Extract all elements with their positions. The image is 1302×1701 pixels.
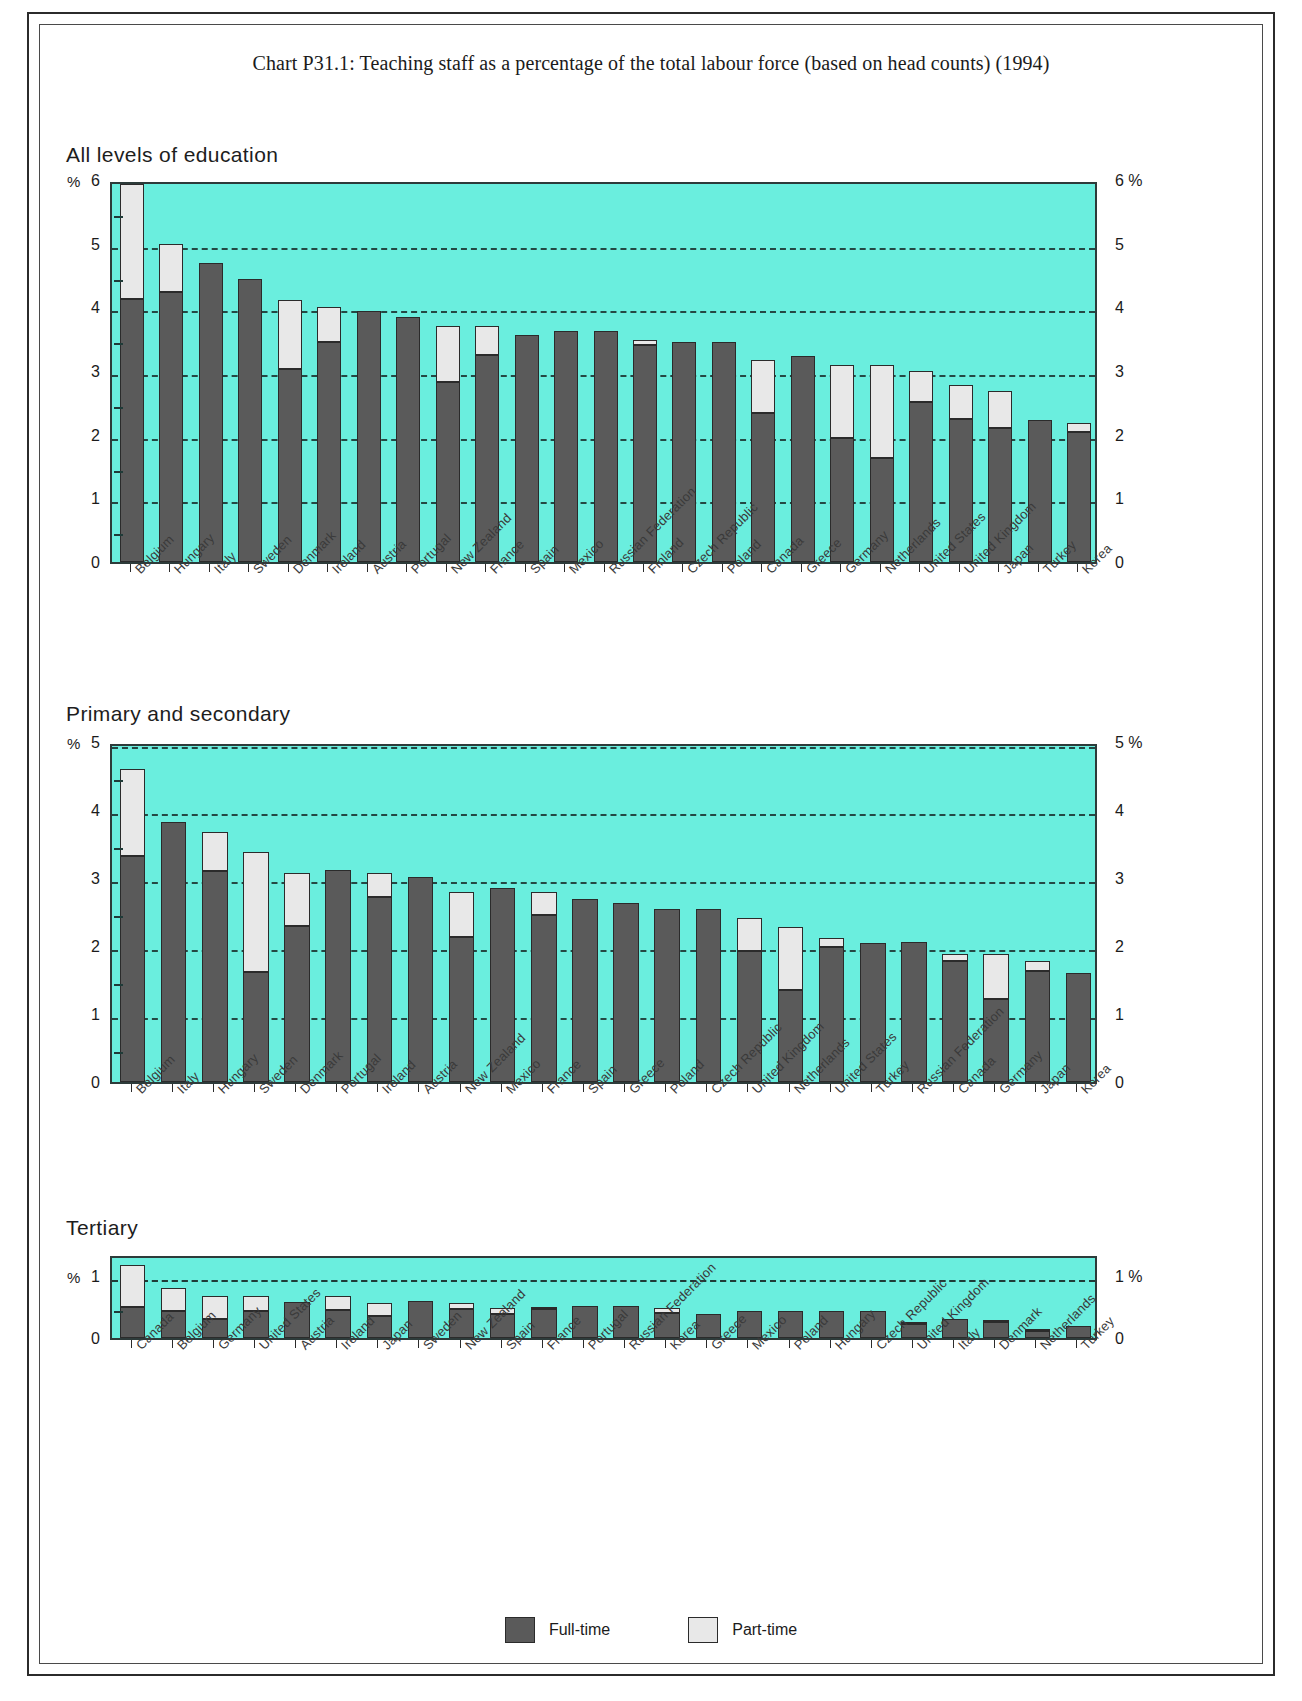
bar-greece (613, 903, 638, 1082)
panel-heading-primary-secondary: Primary and secondary (66, 702, 290, 726)
x-axis-tick (1076, 1340, 1077, 1348)
bar-italy (199, 263, 223, 562)
minor-tick (114, 534, 123, 536)
x-axis-tick (131, 1084, 132, 1092)
bar-canada (120, 1265, 145, 1338)
x-axis-tick (789, 1084, 790, 1092)
bar-segment-part-time (737, 918, 762, 951)
bar-segment-full-time (594, 331, 618, 562)
x-axis-tick (446, 564, 447, 572)
bar-segment-part-time (202, 832, 227, 871)
y-tick-label: 4 (60, 299, 100, 317)
x-axis-tick (912, 1084, 913, 1092)
minor-tick (114, 984, 123, 986)
x-axis-tick (1077, 564, 1078, 572)
bar-segment-full-time (120, 856, 145, 1082)
x-axis-tick (761, 564, 762, 572)
bar-segment-full-time (696, 909, 721, 1082)
x-axis-tick (406, 564, 407, 572)
gridline (112, 814, 1095, 816)
y-tick-label: 0 (60, 1074, 100, 1092)
x-axis-tick (994, 1340, 995, 1348)
x-axis-tick (254, 1340, 255, 1348)
bar-segment-part-time (778, 927, 803, 990)
bar-segment-part-time (325, 1296, 350, 1310)
part-time-swatch-icon (688, 1617, 718, 1643)
x-axis-tick (682, 564, 683, 572)
y-axis-unit: % (67, 1269, 80, 1286)
y-tick-label: 1 (60, 1006, 100, 1024)
x-axis-tick (542, 1084, 543, 1092)
bar-segment-part-time (284, 873, 309, 926)
x-axis-tick (583, 1084, 584, 1092)
y-tick-label-right: 2 (1115, 427, 1175, 445)
bar-hungary (159, 244, 183, 562)
bar-mexico (554, 331, 578, 562)
minor-tick (114, 407, 123, 409)
x-axis-tick (288, 564, 289, 572)
x-axis-tick (327, 564, 328, 572)
x-axis-tick (209, 564, 210, 572)
x-axis-tick (1035, 1084, 1036, 1092)
bar-segment-part-time (819, 938, 844, 947)
bar-segment-full-time (672, 342, 696, 562)
y-tick-label-right: 4 (1115, 299, 1175, 317)
x-axis-tick (172, 1340, 173, 1348)
bar-segment-full-time (1066, 973, 1091, 1082)
x-axis-tick (830, 1340, 831, 1348)
x-axis-tick (953, 1084, 954, 1092)
bar-canada (751, 360, 775, 562)
bar-segment-part-time (449, 892, 474, 937)
bar-denmark (284, 873, 309, 1082)
bar-segment-full-time (357, 311, 381, 562)
bar-segment-part-time (120, 1265, 145, 1307)
bar-segment-part-time (436, 326, 460, 381)
y-tick-label: 1 (60, 490, 100, 508)
x-axis-tick (665, 1340, 666, 1348)
x-axis-tick (919, 564, 920, 572)
bar-sweden (238, 279, 262, 562)
panel-heading-tertiary: Tertiary (66, 1216, 138, 1240)
bar-segment-full-time (554, 331, 578, 562)
bar-sweden (243, 851, 268, 1082)
y-tick-label-right: 5 % (1115, 734, 1175, 752)
bar-turkey (1028, 420, 1052, 562)
bar-italy (161, 822, 186, 1082)
bar-segment-part-time (367, 873, 392, 897)
bar-segment-full-time (199, 263, 223, 562)
x-axis-tick (336, 1084, 337, 1092)
x-axis-tick (418, 1084, 419, 1092)
bar-czech-republic (696, 909, 721, 1082)
bar-segment-part-time (983, 954, 1008, 1000)
x-axis-tick (131, 1340, 132, 1348)
bar-austria (408, 877, 433, 1082)
bar-segment-full-time (120, 299, 144, 562)
x-axis-tick (418, 1340, 419, 1348)
x-axis-tick (213, 1340, 214, 1348)
bar-segment-part-time (475, 326, 499, 355)
y-tick-label: 5 (60, 236, 100, 254)
bar-segment-full-time (613, 903, 638, 1082)
x-axis-tick (172, 1084, 173, 1092)
x-axis-tick (665, 1084, 666, 1092)
y-tick-label: 3 (60, 363, 100, 381)
bar-segment-part-time (870, 365, 894, 458)
bar-hungary (202, 832, 227, 1082)
bar-segment-part-time (161, 1288, 186, 1312)
legend-label-full-time: Full-time (549, 1621, 610, 1639)
x-axis-tick (460, 1340, 461, 1348)
bar-segment-part-time (751, 360, 775, 413)
x-axis-tick (706, 1340, 707, 1348)
x-axis-tick (871, 1340, 872, 1348)
y-tick-label-right: 6 % (1115, 172, 1175, 190)
bar-segment-full-time (515, 335, 539, 562)
x-axis-tick (789, 1340, 790, 1348)
bar-segment-full-time (791, 356, 815, 562)
bar-segment-part-time (830, 365, 854, 438)
bar-segment-part-time (159, 244, 183, 292)
x-axis-tick (994, 1084, 995, 1092)
plot-area-all-levels (110, 182, 1097, 564)
x-axis-tick (501, 1084, 502, 1092)
y-tick-label-right: 0 (1115, 1330, 1175, 1348)
bar-segment-part-time (983, 1320, 1008, 1322)
